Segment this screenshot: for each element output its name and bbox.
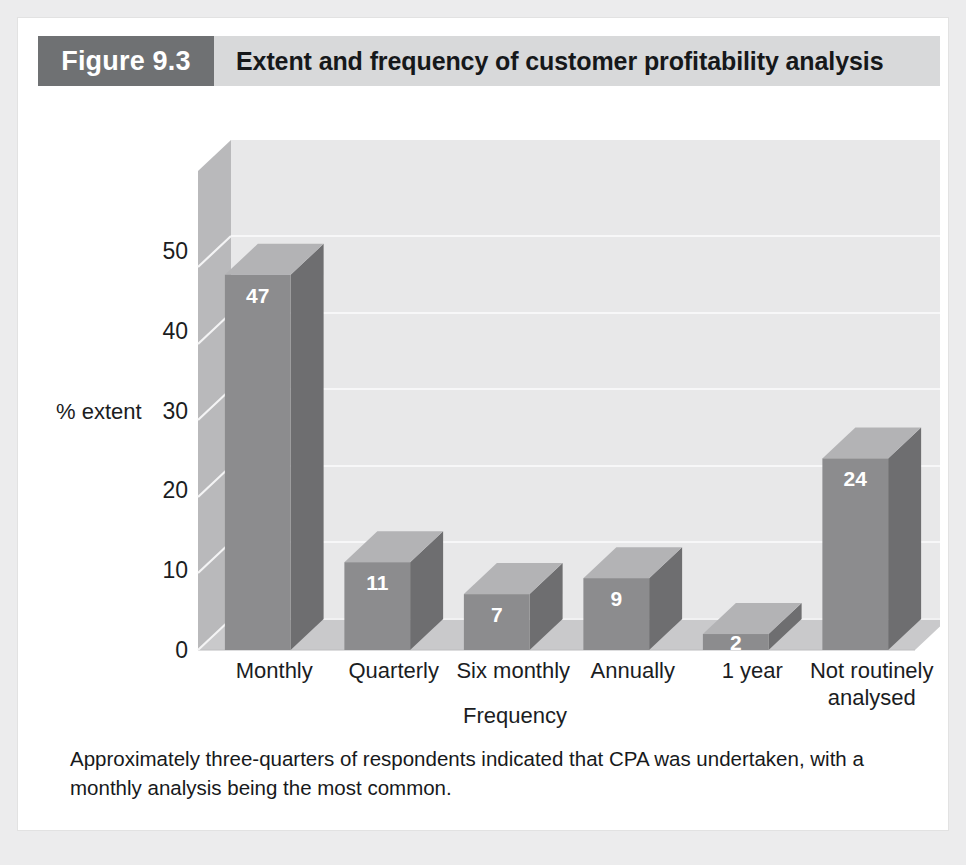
bar-5[interactable]: 24: [822, 427, 921, 650]
bar-0-front: [225, 275, 291, 650]
y-tick-30: 30: [162, 398, 188, 424]
y-axis-title: % extent: [56, 399, 142, 424]
y-tick-10: 10: [162, 557, 188, 583]
figure-header: Figure 9.3 Extent and frequency of custo…: [38, 36, 940, 86]
x-tick-labels: MonthlyQuarterlySix monthlyAnnually1 yea…: [236, 658, 934, 710]
figure-title: Extent and frequency of customer profita…: [236, 47, 883, 76]
y-tick-50: 50: [162, 238, 188, 264]
x-axis-title: Frequency: [463, 703, 567, 728]
chart-area: 471179224 01020304050 % extent MonthlyQu…: [38, 98, 940, 728]
bar-1-value-label: 11: [366, 571, 389, 594]
bar-0-value-label: 47: [246, 284, 269, 307]
x-tick-0: Monthly: [236, 658, 313, 683]
caption-line-2: monthly analysis being the most common.: [70, 773, 914, 802]
bar-5-value-label: 24: [844, 467, 868, 490]
y-tick-0: 0: [175, 637, 188, 663]
bar-4-value-label: 2: [730, 631, 742, 654]
caption-line-1: Approximately three-quarters of responde…: [70, 744, 914, 773]
bar-5-side: [888, 427, 921, 650]
figure-panel: Figure 9.3 Extent and frequency of custo…: [18, 18, 948, 830]
x-tick-1: Quarterly: [349, 658, 439, 683]
bar-2-value-label: 7: [491, 603, 503, 626]
figure-title-wrap: Extent and frequency of customer profita…: [214, 36, 940, 86]
x-tick-5-line-0: Not routinely: [810, 658, 934, 683]
bar-3-value-label: 9: [610, 587, 622, 610]
bar-0-side: [291, 244, 324, 650]
bar-chart-3d: 471179224 01020304050 % extent MonthlyQu…: [38, 98, 940, 728]
x-tick-4: 1 year: [722, 658, 783, 683]
y-tick-labels: 01020304050: [162, 238, 188, 663]
x-tick-3: Annually: [591, 658, 675, 683]
x-tick-2: Six monthly: [456, 658, 570, 683]
figure-number-block: Figure 9.3: [38, 36, 214, 86]
x-tick-5-line-1: analysed: [828, 685, 916, 710]
y-tick-40: 40: [162, 318, 188, 344]
figure-caption: Approximately three-quarters of responde…: [70, 744, 914, 802]
bar-1[interactable]: 11: [344, 531, 443, 650]
figure-number-label: Figure 9.3: [61, 46, 191, 77]
bar-0[interactable]: 47: [225, 244, 324, 650]
y-tick-20: 20: [162, 477, 188, 503]
